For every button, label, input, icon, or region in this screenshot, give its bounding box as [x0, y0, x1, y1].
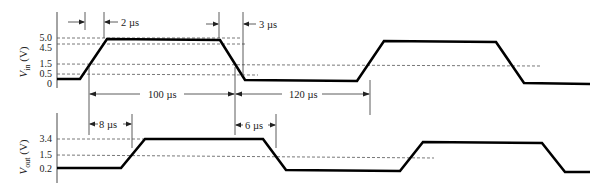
annotation-rise-time-in: 2 µs [68, 17, 139, 28]
vin-tick-4.5: 4.5 [40, 42, 53, 53]
vin-tick-0: 0 [47, 78, 52, 89]
svg-text:100 µs: 100 µs [148, 89, 177, 100]
vout-tick-3.4: 3.4 [40, 133, 53, 144]
vout-waveform [57, 139, 590, 172]
vin-waveform [57, 39, 590, 84]
annotation-delay-rise: 8 µs [89, 119, 132, 130]
svg-text:2 µs: 2 µs [121, 17, 139, 28]
vout-axis-label: Vout (V) [17, 139, 32, 174]
vin-axis-label: Vin (V) [17, 46, 32, 77]
annotation-fall-time-in: 3 µs [206, 19, 277, 30]
vout-tick-1.5: 1.5 [40, 149, 53, 160]
vin-ref-1.5 [57, 64, 540, 66]
svg-text:6 µs: 6 µs [245, 120, 263, 131]
vout-tick-0.2: 0.2 [40, 163, 53, 174]
vin-panel: 5.0 4.5 1.5 0.5 0 Vin (V) [17, 12, 590, 89]
svg-text:3 µs: 3 µs [259, 19, 277, 30]
annotation-high-duration: 100 µs [89, 89, 235, 100]
svg-text:120 µs: 120 µs [289, 89, 318, 100]
annotation-low-duration: 120 µs [235, 89, 370, 100]
vout-ref-1.5 [57, 155, 434, 158]
vin-ref-0.5 [57, 74, 258, 75]
annotation-delay-fall: 6 µs [235, 120, 276, 131]
timing-diagram: 5.0 4.5 1.5 0.5 0 Vin (V) 2 µs [0, 0, 606, 192]
svg-text:8 µs: 8 µs [99, 119, 117, 130]
